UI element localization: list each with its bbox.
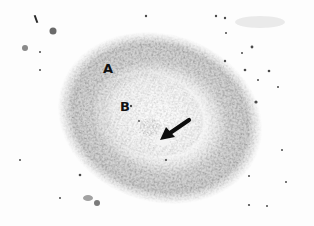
micrograph-texture: [0, 0, 314, 226]
micrograph-figure: A B: [0, 0, 314, 226]
label-b: B: [120, 100, 130, 113]
label-a: A: [103, 62, 113, 75]
